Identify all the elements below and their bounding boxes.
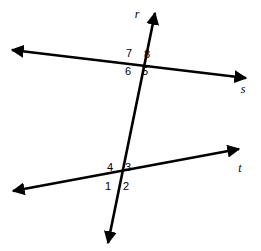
geometry-figure: r s t 7 8 6 5 4 3 1 2 (0, 0, 261, 251)
angle-label-2: 2 (123, 181, 129, 192)
line-label-r: r (135, 8, 140, 20)
angle-label-5: 5 (142, 66, 148, 77)
angle-label-1: 1 (105, 181, 111, 192)
line-label-t: t (238, 162, 241, 174)
line-label-s: s (241, 83, 246, 95)
angle-label-7: 7 (126, 48, 132, 59)
angle-label-8: 8 (144, 49, 150, 60)
geometry-canvas (0, 0, 261, 251)
angle-label-3: 3 (125, 162, 131, 173)
angle-label-4: 4 (107, 162, 113, 173)
angle-label-6: 6 (125, 66, 131, 77)
